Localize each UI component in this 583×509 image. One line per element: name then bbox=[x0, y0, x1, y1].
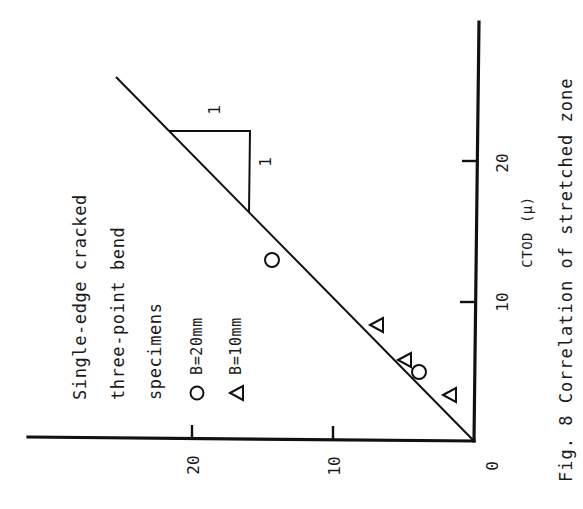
stretched-zone-axis bbox=[28, 437, 474, 441]
origin-label: 0 bbox=[483, 461, 502, 471]
legend-heading-line-2: three-point bend bbox=[108, 227, 128, 400]
data-point-triangle bbox=[443, 388, 456, 402]
legend: Single-edge cracked three-point bend spe… bbox=[70, 194, 245, 400]
ctod-axis bbox=[474, 22, 479, 441]
slope-label-rise: 1 bbox=[256, 157, 275, 167]
data-point-circle bbox=[265, 253, 279, 267]
chart-figure: 20 10 0 10 20 CTOD (μ) 1 1 Single-edge c… bbox=[0, 0, 583, 509]
legend-triangle-label: B=10mm bbox=[227, 317, 245, 375]
figure-caption: Fig. 8 Correlation of stretched zone bbox=[556, 78, 576, 482]
legend-circle-icon bbox=[191, 387, 204, 400]
legend-heading-line-3: specimens bbox=[145, 302, 165, 400]
sz-tick-label-20: 20 bbox=[184, 455, 203, 474]
sz-tick-label-10: 10 bbox=[325, 456, 344, 475]
ctod-axis-title: CTOD (μ) bbox=[519, 196, 535, 267]
legend-circle-label: B=20mm bbox=[188, 317, 206, 375]
data-point-circle bbox=[412, 365, 426, 379]
data-point-triangle bbox=[370, 318, 383, 332]
legend-triangle-icon bbox=[230, 386, 243, 400]
ctod-tick-label-10: 10 bbox=[493, 292, 512, 311]
chart-canvas: 20 10 0 10 20 CTOD (μ) 1 1 Single-edge c… bbox=[0, 0, 583, 509]
ctod-tick-label-20: 20 bbox=[493, 153, 512, 172]
slope-label-run: 1 bbox=[205, 105, 224, 115]
legend-heading-line-1: Single-edge cracked bbox=[70, 194, 90, 400]
